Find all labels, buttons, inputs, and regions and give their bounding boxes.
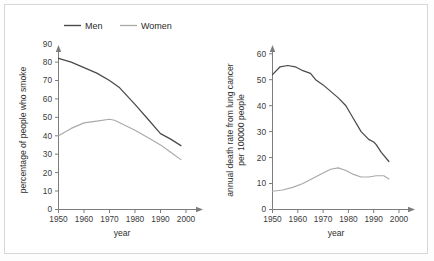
smoking-x-axis-arrow — [196, 207, 203, 212]
dual-line-chart-figure: Men Women — [0, 0, 434, 261]
lung-cancer-x-ticklabel-1990: 1990 — [364, 214, 383, 224]
smoking-y-ticklabel-10: 10 — [43, 186, 53, 196]
smoking-x-ticklabel-2000: 2000 — [177, 214, 196, 224]
men-legend-label: Men — [85, 21, 103, 31]
smoking-series-women — [59, 119, 181, 159]
smoking-x-ticklabel-1970: 1970 — [100, 214, 119, 224]
smoking-x-axis-title: year — [114, 228, 131, 238]
smoking-x-ticklabel-1960: 1960 — [75, 214, 94, 224]
smoking-y-ticklabel-50: 50 — [43, 112, 53, 122]
women-legend-label: Women — [141, 21, 172, 31]
smoking-x-ticklabel-1980: 1980 — [126, 214, 145, 224]
smoking-series-men — [59, 58, 181, 145]
lung-cancer-x-axis-arrow — [408, 207, 415, 212]
smoking-y-ticklabel-90: 90 — [43, 39, 53, 49]
smoking-chart: 0 10 20 30 40 50 60 70 80 90 — [18, 39, 203, 238]
lung-cancer-y-axis-arrow — [270, 45, 275, 52]
smoking-y-ticklabel-20: 20 — [43, 168, 53, 178]
lung-cancer-x-ticks — [273, 210, 400, 214]
smoking-x-ticklabel-1950: 1950 — [49, 214, 68, 224]
smoking-y-ticklabel-30: 30 — [43, 149, 53, 159]
lung-cancer-y-ticks — [269, 54, 273, 210]
smoking-y-ticklabel-80: 80 — [43, 57, 53, 67]
lung-cancer-x-ticklabel-2000: 2000 — [390, 214, 409, 224]
lung-cancer-y-ticklabel-40: 40 — [257, 101, 267, 111]
smoking-y-ticklabel-0: 0 — [47, 204, 52, 214]
smoking-y-axis-title: percentage of people who smoke — [18, 66, 28, 193]
lung-cancer-x-ticklabels: 1950 1960 1970 1980 1990 2000 — [263, 214, 408, 224]
lung-cancer-y-ticklabel-30: 30 — [257, 127, 267, 137]
lung-cancer-x-ticklabel-1980: 1980 — [339, 214, 358, 224]
lung-cancer-series-men — [273, 66, 389, 162]
smoking-x-ticklabel-1990: 1990 — [151, 214, 170, 224]
lung-cancer-y-axis-title: annual death rate from lung cancerper 10… — [225, 63, 246, 196]
smoking-y-axis-arrow — [56, 45, 61, 52]
lung-cancer-series-women — [273, 168, 389, 191]
lung-cancer-x-ticklabel-1950: 1950 — [263, 214, 282, 224]
chart-legend: Men Women — [64, 21, 172, 31]
lung-cancer-y-ticklabel-20: 20 — [257, 153, 267, 163]
lung-cancer-x-axis-title: year — [328, 228, 345, 238]
lung-cancer-y-ticklabel-0: 0 — [261, 204, 266, 214]
lung-cancer-y-ticklabel-50: 50 — [257, 75, 267, 85]
smoking-y-ticklabel-60: 60 — [43, 94, 53, 104]
smoking-x-ticks — [59, 210, 187, 214]
smoking-x-ticklabels: 1950 1960 1970 1980 1990 2000 — [49, 214, 195, 224]
screenshot-page: Men Women — [0, 0, 434, 261]
smoking-y-ticklabel-40: 40 — [43, 131, 53, 141]
lung-cancer-y-ticklabel-60: 60 — [257, 49, 267, 59]
lung-cancer-x-ticklabel-1960: 1960 — [289, 214, 308, 224]
lung-cancer-chart: 0 10 20 30 40 50 60 1950 1960 1970 — [225, 45, 415, 238]
lung-cancer-y-ticklabel-10: 10 — [257, 178, 267, 188]
lung-cancer-x-ticklabel-1970: 1970 — [314, 214, 333, 224]
smoking-y-ticklabels: 0 10 20 30 40 50 60 70 80 90 — [43, 39, 53, 215]
smoking-y-ticklabel-70: 70 — [43, 75, 53, 85]
lung-cancer-y-ticklabels: 0 10 20 30 40 50 60 — [257, 49, 267, 215]
